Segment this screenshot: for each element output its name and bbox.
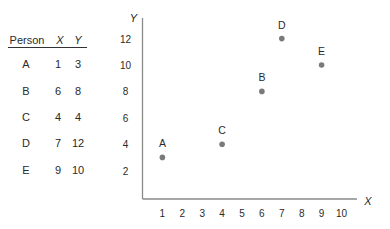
x-tick-label: 3 bbox=[199, 208, 205, 219]
x-tick-label: 8 bbox=[299, 208, 305, 219]
x-tick-label: 4 bbox=[219, 208, 225, 219]
data-point bbox=[219, 141, 225, 147]
point-label: D bbox=[278, 19, 286, 31]
scatter-plot: YX1234567891024681012ABCDE bbox=[0, 0, 390, 229]
y-tick-label: 2 bbox=[123, 166, 129, 177]
x-tick-label: 1 bbox=[160, 208, 166, 219]
x-tick-label: 5 bbox=[239, 208, 245, 219]
x-tick-label: 7 bbox=[279, 208, 285, 219]
x-tick-label: 2 bbox=[180, 208, 186, 219]
y-tick-label: 12 bbox=[120, 34, 132, 45]
point-label: C bbox=[218, 124, 226, 136]
y-tick-label: 6 bbox=[123, 113, 129, 124]
y-tick-label: 10 bbox=[120, 60, 132, 71]
data-point bbox=[279, 36, 285, 42]
data-point bbox=[319, 62, 325, 68]
data-point bbox=[160, 155, 166, 161]
point-label: E bbox=[318, 45, 325, 57]
y-tick-label: 4 bbox=[123, 139, 129, 150]
x-tick-label: 6 bbox=[259, 208, 265, 219]
point-label: A bbox=[159, 137, 166, 149]
x-tick-label: 9 bbox=[319, 208, 325, 219]
data-point bbox=[259, 89, 265, 95]
y-tick-label: 8 bbox=[123, 86, 129, 97]
x-tick-label: 10 bbox=[336, 208, 348, 219]
point-label: B bbox=[258, 71, 265, 83]
x-axis-label: X bbox=[363, 195, 372, 207]
y-axis-label: Y bbox=[130, 12, 138, 24]
